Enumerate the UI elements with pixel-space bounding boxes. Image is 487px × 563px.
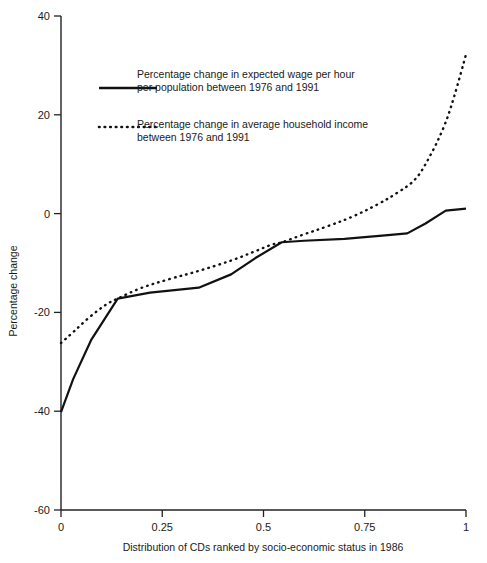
legend: Percentage change in expected wage per h… (99, 68, 368, 143)
x-axis-tick-labels: 00.250.50.751 (58, 521, 469, 533)
y-tick-label: 20 (38, 109, 50, 121)
x-axis-ticks (61, 510, 466, 517)
percentage-change-line-chart: 40200-20-40-60 00.250.50.751 Percentage … (0, 0, 487, 563)
y-tick-label: -40 (34, 405, 50, 417)
chart-container: 40200-20-40-60 00.250.50.751 Percentage … (0, 0, 487, 563)
series-expected-wage-line (61, 209, 466, 413)
y-axis-title: Percentage change (7, 245, 19, 336)
legend-label-household-income-line1: Percentage change in average household i… (137, 118, 368, 130)
x-axis-title: Distribution of CDs ranked by socio-econ… (123, 541, 404, 553)
x-tick-label: 0 (58, 521, 64, 533)
x-tick-label: 0.75 (354, 521, 375, 533)
legend-label-household-income-line2: between 1976 and 1991 (137, 131, 250, 143)
y-tick-label: 0 (44, 208, 50, 220)
legend-label-expected-wage-line1: Percentage change in expected wage per h… (137, 68, 355, 80)
x-tick-label: 0.5 (256, 521, 271, 533)
series-household-income-line (61, 55, 466, 344)
y-tick-label: 40 (38, 10, 50, 22)
y-axis-tick-labels: 40200-20-40-60 (34, 10, 50, 516)
y-tick-label: -60 (34, 504, 50, 516)
legend-label-expected-wage-line2: per population between 1976 and 1991 (137, 81, 319, 93)
y-tick-label: -20 (34, 306, 50, 318)
y-axis-ticks (54, 16, 61, 510)
x-tick-label: 1 (463, 521, 469, 533)
x-tick-label: 0.25 (152, 521, 173, 533)
